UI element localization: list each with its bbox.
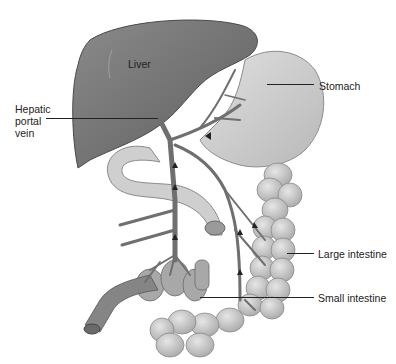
label-hepatic-portal-vein-line3: vein [15,127,34,139]
hepatic-portal-diagram: Liver Hepatic portal vein Stomach Large … [0,0,396,364]
label-liver: Liver [128,58,151,70]
anatomy-illustration [0,0,396,364]
leader-line-large-intestine [287,253,314,254]
leader-line-small-intestine [200,297,314,298]
label-stomach: Stomach [319,80,360,92]
label-hepatic-portal-vein-line2: portal [15,115,41,127]
label-small-intestine: Small intestine [318,292,386,304]
leader-line-stomach [267,84,314,85]
label-hepatic-portal-vein-line1: Hepatic [15,103,51,115]
label-large-intestine: Large intestine [318,248,387,260]
duodenum [107,146,222,235]
leader-line-hepatic-portal-vein [46,118,158,119]
mesenteric-vein-trunk [85,275,158,332]
